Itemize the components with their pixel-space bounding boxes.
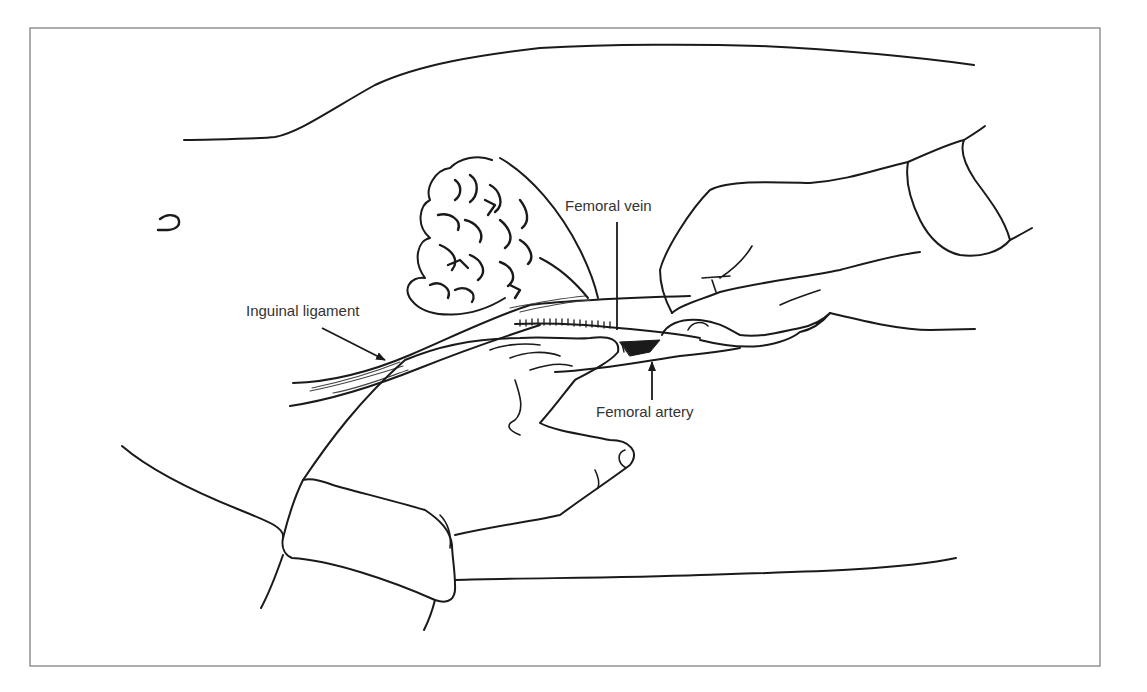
femoral-artery-shading — [620, 340, 660, 356]
lower-hand-outline — [303, 337, 634, 535]
label-femoral-vein: Femoral vein — [565, 198, 652, 213]
lower-hand-thumb-nail — [619, 450, 626, 468]
upper-hand-tendon — [702, 246, 752, 292]
label-inguinal-ligament: Inguinal ligament — [246, 303, 359, 318]
upper-hand-outline — [660, 162, 908, 313]
umbilicus-mark — [158, 215, 179, 230]
lower-hand-finger-lines — [490, 344, 572, 435]
lower-forearm-line-left — [261, 555, 283, 608]
upper-hand-crease — [780, 290, 820, 305]
lower-hand-cuff — [282, 479, 455, 601]
lower-hand-crease — [595, 470, 599, 488]
upper-body-contour — [184, 45, 974, 140]
lower-hand-cuff-crease — [440, 515, 450, 548]
right-thigh-line — [830, 313, 975, 330]
figure-frame — [30, 28, 1100, 666]
fat-pad-upper-boundary — [500, 158, 598, 298]
inguinal-ligament-arrow — [322, 328, 385, 360]
upper-forearm-line-bottom — [1010, 228, 1032, 240]
lower-body-contour — [455, 558, 956, 580]
upper-forearm-line-top — [964, 126, 985, 140]
upper-hand-knuckle — [688, 323, 708, 330]
lower-left-body-contour — [122, 446, 283, 538]
upper-hand-lower-outline — [672, 252, 920, 313]
fat-pad-inner-boundary — [540, 258, 588, 298]
label-femoral-artery: Femoral artery — [596, 404, 694, 419]
illustration-canvas — [0, 0, 1147, 692]
surgical-illustration: Inguinal ligament Femoral vein Femoral a… — [0, 0, 1147, 692]
upper-hand-fingers — [662, 313, 830, 347]
inguinal-ligament-lower — [290, 325, 540, 406]
lower-forearm-line-right — [424, 600, 435, 630]
upper-hand-cuff — [907, 140, 1010, 256]
incision-upper-edge — [515, 323, 700, 338]
